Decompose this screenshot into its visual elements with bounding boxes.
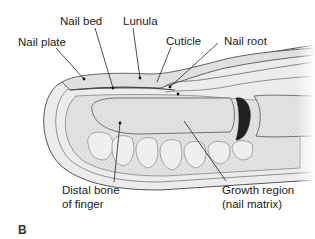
label-cuticle: Cuticle bbox=[166, 35, 201, 48]
label-nail-root: Nail root bbox=[224, 35, 267, 48]
label-distal-bone-line1: Distal bone bbox=[62, 184, 120, 197]
distal-bone bbox=[92, 98, 235, 134]
nail-anatomy-figure: Nail plate Nail bed Lunula Cuticle Nail … bbox=[0, 0, 315, 239]
label-nail-bed: Nail bed bbox=[60, 15, 102, 28]
label-growth-region-line1: Growth region bbox=[222, 184, 294, 197]
panel-label: B bbox=[18, 223, 27, 237]
label-growth-region-line2: (nail matrix) bbox=[222, 198, 282, 211]
label-distal-bone-line2: of finger bbox=[62, 198, 104, 211]
label-nail-plate: Nail plate bbox=[18, 36, 66, 49]
label-lunula: Lunula bbox=[123, 15, 158, 28]
